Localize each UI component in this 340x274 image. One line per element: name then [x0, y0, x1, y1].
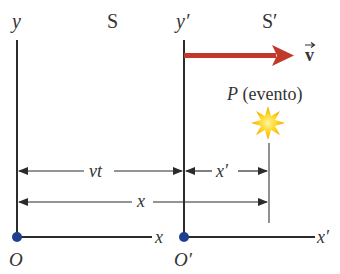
- y-axis-label: y: [10, 10, 21, 33]
- origin-o-label: O: [9, 249, 23, 270]
- vt-label: vt: [89, 161, 103, 181]
- frame-s-label: S: [107, 10, 118, 32]
- dimension-x-prime: x′: [186, 161, 267, 181]
- dimension-x: x: [19, 191, 267, 211]
- dimension-vt: vt: [19, 161, 182, 181]
- x-prime-label: x′: [215, 161, 229, 181]
- frame-s-prime-label: S′: [262, 10, 278, 32]
- y-prime-axis-label: y′: [174, 10, 190, 33]
- galilean-transformation-diagram: y S x O y′ S′ x′ O′ v P (evento) vt: [0, 0, 340, 274]
- event-star-icon: [251, 106, 285, 140]
- velocity-label: v: [305, 45, 314, 65]
- velocity-vector: v: [184, 43, 315, 67]
- x-prime-axis-label: x′: [316, 227, 330, 247]
- x-label: x: [136, 191, 145, 211]
- frame-s: y S x O: [9, 10, 163, 270]
- origin-o-dot: [12, 232, 22, 242]
- x-axis-label: x: [154, 227, 163, 247]
- event-label: P (evento): [226, 84, 302, 105]
- event-text: (evento): [238, 84, 302, 105]
- origin-o-prime-dot: [179, 232, 189, 242]
- velocity-arrow-shaft: [184, 53, 276, 58]
- event-symbol: P: [226, 84, 238, 104]
- origin-o-prime-label: O′: [174, 249, 193, 270]
